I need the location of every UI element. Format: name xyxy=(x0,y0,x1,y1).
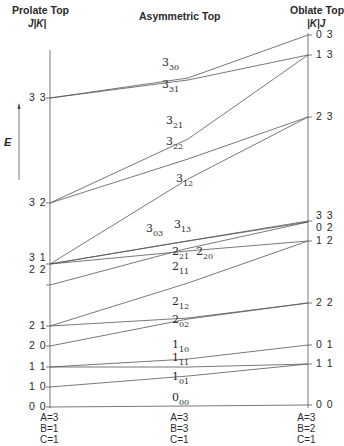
oblate-level-label: 0 0 xyxy=(316,398,334,410)
energy-arrow-head xyxy=(18,103,21,109)
prolate-level-label: 2 2 xyxy=(29,263,47,275)
asymmetric-level-label: 000 xyxy=(172,391,189,406)
asymmetric-title: Asymmetric Top xyxy=(139,10,221,22)
prolate-level-label: 2 1 xyxy=(29,319,47,331)
prolate-parameters: A=3 B=1 C=1 xyxy=(40,412,59,445)
param-a: A=3 xyxy=(40,412,59,423)
asymmetric-parameters: A=3 B=3 C=1 xyxy=(170,412,189,445)
asymmetric-level-label: 111 xyxy=(172,351,189,366)
oblate-level-label: 0 3 xyxy=(316,28,334,40)
level-subscript: 02 xyxy=(179,320,189,329)
level-subscript: 13 xyxy=(181,225,191,234)
oblate-title: Oblate Top xyxy=(290,4,344,16)
level-subscript: 20 xyxy=(203,252,213,261)
level-subscript: 21 xyxy=(173,121,183,130)
level-subscript: 11 xyxy=(179,358,189,367)
level-subscript: 22 xyxy=(173,142,183,151)
level-subscript: 30 xyxy=(169,63,179,72)
asymmetric-level-label: 220 xyxy=(196,245,213,260)
asymmetric-level-label: 330 xyxy=(162,56,179,71)
asymmetric-level-label: 221 xyxy=(172,245,189,260)
asymmetric-level-label: 321 xyxy=(166,114,183,129)
oblate-level-label: 0 2 xyxy=(316,221,334,233)
prolate-level-label: 0 0 xyxy=(29,400,47,412)
prolate-level-label: 3 3 xyxy=(29,91,47,103)
oblate-level-label: 0 1 xyxy=(316,338,334,350)
level-subscript: 12 xyxy=(179,302,189,311)
oblate-level-label: 2 3 xyxy=(316,110,334,122)
oblate-level-label: 1 1 xyxy=(316,357,334,369)
prolate-level-label: 1 1 xyxy=(29,360,47,372)
level-subscript: 03 xyxy=(153,229,163,238)
param-c: C=1 xyxy=(40,434,59,445)
asymmetric-level-label: 101 xyxy=(172,370,189,385)
prolate-title: Prolate Top xyxy=(12,4,69,16)
asymmetric-level-label: 211 xyxy=(172,260,189,275)
asymmetric-level-label: 313 xyxy=(174,218,191,233)
param-b: B=1 xyxy=(40,423,59,434)
level-subscript: 00 xyxy=(179,398,189,407)
level-subscript: 11 xyxy=(179,267,189,276)
asymmetric-level-label: 202 xyxy=(172,313,189,328)
prolate-level-label: 3 1 xyxy=(29,251,47,263)
param-b: B=2 xyxy=(297,423,316,434)
oblate-level-label: 2 2 xyxy=(316,296,334,308)
level-subscript: 31 xyxy=(169,85,179,94)
prolate-level-label: 3 2 xyxy=(29,196,47,208)
energy-label: E xyxy=(4,136,11,148)
oblate-parameters: A=3 B=2 C=1 xyxy=(297,412,316,445)
param-c: C=1 xyxy=(297,434,316,445)
prolate-subtitle: J|K| xyxy=(28,18,46,29)
oblate-level-label: 1 3 xyxy=(316,48,334,60)
asymmetric-level-label: 322 xyxy=(166,135,183,150)
level-subscript: 12 xyxy=(183,179,193,188)
prolate-level-label: 2 0 xyxy=(29,339,47,351)
param-b: B=3 xyxy=(170,423,189,434)
asymmetric-level-label: 212 xyxy=(172,295,189,310)
param-c: C=1 xyxy=(170,434,189,445)
param-a: A=3 xyxy=(297,412,316,423)
asymmetric-level-label: 331 xyxy=(162,78,179,93)
param-a: A=3 xyxy=(170,412,189,423)
oblate-level-label: 1 2 xyxy=(316,234,334,246)
prolate-level-label: 1 0 xyxy=(29,380,47,392)
asymmetric-level-label: 303 xyxy=(146,222,163,237)
level-subscript: 01 xyxy=(179,377,189,386)
asymmetric-level-label: 312 xyxy=(176,172,193,187)
oblate-level-label: 3 3 xyxy=(316,209,334,221)
